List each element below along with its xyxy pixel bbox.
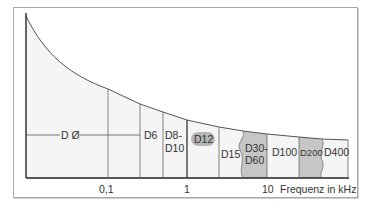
band-label-d30-line2: D60 xyxy=(245,154,264,166)
x-tick-1: 1 xyxy=(184,183,190,195)
band-label-d15: D15 xyxy=(221,148,240,160)
x-axis-label: Frequenz in kHz xyxy=(280,183,356,195)
band-label-d100: D100 xyxy=(272,146,297,158)
y-axis-label: D Ø xyxy=(61,129,80,141)
band-label-d8-line2: D10 xyxy=(165,142,184,154)
band-label-d8-line1: D8- xyxy=(165,129,182,141)
frequency-diameter-diagram: D Ø D6 D8- D10 D12 D15 D30- D60 D100 D20… xyxy=(0,0,370,208)
band-label-d200: D200 xyxy=(300,147,323,158)
band-label-d400: D400 xyxy=(324,146,349,158)
band-label-d6: D6 xyxy=(144,129,158,141)
x-tick-10: 10 xyxy=(262,183,274,195)
band-label-d12: D12 xyxy=(194,133,213,145)
x-tick-0-1: 0,1 xyxy=(99,183,114,195)
band-label-d30-line1: D30- xyxy=(245,142,268,154)
